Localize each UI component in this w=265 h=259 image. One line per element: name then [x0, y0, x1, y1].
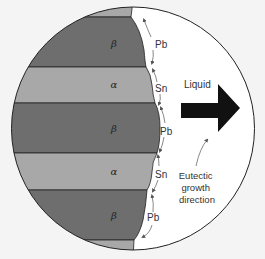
eutectic-diagram: β α β α β Pb Sn Pb Sn Pb Liquid Eutectic…	[0, 0, 265, 259]
alpha-band-1	[0, 67, 155, 103]
diffusion-label: Sn	[155, 83, 167, 94]
beta-band-3	[0, 190, 147, 240]
beta-band-2	[0, 103, 160, 153]
diffusion-label: Pb	[155, 39, 168, 50]
alpha-band-2	[0, 153, 157, 190]
bottom-alpha-band	[0, 240, 134, 259]
diffusion-label: Sn	[155, 169, 167, 180]
phase-label: β	[110, 38, 117, 49]
phase-label: β	[110, 210, 117, 221]
phase-label: α	[111, 166, 118, 177]
diffusion-label: Pb	[160, 126, 173, 137]
diffusion-label: Pb	[147, 212, 160, 223]
phase-label: β	[110, 123, 117, 134]
growth-label: Eutectic growth direction	[179, 170, 215, 205]
phase-label: α	[111, 79, 118, 90]
liquid-label: Liquid	[184, 79, 211, 90]
beta-band-1	[0, 17, 146, 67]
